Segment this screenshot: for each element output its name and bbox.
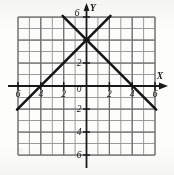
- x-axis-label: X: [156, 71, 164, 81]
- x-tick-label-6: 6: [153, 89, 158, 99]
- graph-figure: 6 2 0 2 4 6 6 4 2 2 4 6 Y X: [0, 0, 174, 175]
- x-tick-label-2: 2: [107, 89, 112, 99]
- y-tick-label-6: 6: [75, 8, 80, 18]
- x-tick-label-4: 4: [130, 89, 135, 99]
- x-tick-label-neg2: 2: [61, 89, 66, 99]
- y-axis-label: Y: [90, 3, 97, 13]
- x-tick-label-neg6: 6: [16, 89, 21, 99]
- y-tick-label-neg2: 2: [77, 104, 82, 114]
- y-tick-label-0: 0: [77, 84, 82, 94]
- y-tick-label-neg6: 6: [77, 150, 82, 160]
- x-tick-label-neg4: 4: [38, 89, 43, 99]
- x-axis-arrow-icon: [159, 83, 168, 90]
- coordinate-plane-svg: 6 2 0 2 4 6 6 4 2 2 4 6 Y X: [0, 0, 174, 175]
- y-axis-arrow-icon: [84, 3, 90, 11]
- y-tick-label-2: 2: [77, 58, 82, 68]
- y-tick-label-neg4: 4: [77, 127, 82, 137]
